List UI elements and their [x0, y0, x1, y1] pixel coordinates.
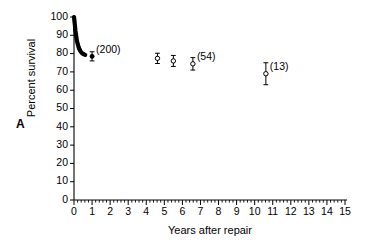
data-marker	[191, 62, 195, 66]
y-tick-label: 40	[56, 120, 68, 132]
x-tick-label: 2	[107, 205, 113, 217]
x-tick-label: 0	[71, 205, 77, 217]
y-tick-label: 0	[62, 193, 68, 205]
y-tick-label: 100	[50, 10, 68, 22]
x-tick-label: 12	[285, 205, 297, 217]
y-tick-label: 50	[56, 101, 68, 113]
x-tick-label: 7	[198, 205, 204, 217]
data-point-group: (13)	[263, 60, 288, 84]
x-tick-label: 10	[249, 205, 261, 217]
x-tick-label: 4	[143, 205, 149, 217]
figure-panel-a: A Percent survival Years after repair 01…	[0, 0, 365, 249]
x-tick-label: 5	[161, 205, 167, 217]
x-tick-label: 13	[303, 205, 315, 217]
y-tick-label: 10	[56, 174, 68, 186]
x-tick-label: 1	[89, 205, 95, 217]
x-tick-label: 11	[267, 205, 278, 217]
point-count-label: (13)	[270, 60, 289, 72]
y-tick-label: 80	[56, 46, 68, 58]
data-point-group	[171, 55, 176, 66]
data-marker	[264, 72, 268, 76]
data-point-group: (54)	[190, 50, 215, 70]
data-point-group: (200)	[90, 43, 121, 61]
y-tick-label: 60	[56, 83, 68, 95]
x-tick-label: 15	[339, 205, 351, 217]
plot-area: 0102030405060708090100012345678910111213…	[0, 0, 365, 249]
x-tick-label: 3	[125, 205, 131, 217]
x-tick-label: 9	[234, 205, 240, 217]
y-tick-label: 20	[56, 156, 68, 168]
y-axis-title: Percent survival	[25, 18, 37, 138]
data-point-group	[155, 53, 160, 63]
panel-label: A	[16, 117, 25, 131]
y-tick-label: 70	[56, 65, 68, 77]
x-axis-title: Years after repair	[74, 224, 346, 236]
data-marker	[171, 59, 175, 63]
x-tick-label: 6	[179, 205, 185, 217]
data-marker	[90, 54, 94, 58]
x-tick-label: 8	[216, 205, 222, 217]
data-marker	[155, 56, 159, 60]
y-tick-label: 90	[56, 28, 68, 40]
survival-curve-overlay	[74, 17, 85, 55]
point-count-label: (200)	[96, 43, 121, 55]
y-tick-label: 30	[56, 138, 68, 150]
x-tick-label: 14	[321, 205, 333, 217]
point-count-label: (54)	[197, 50, 216, 62]
